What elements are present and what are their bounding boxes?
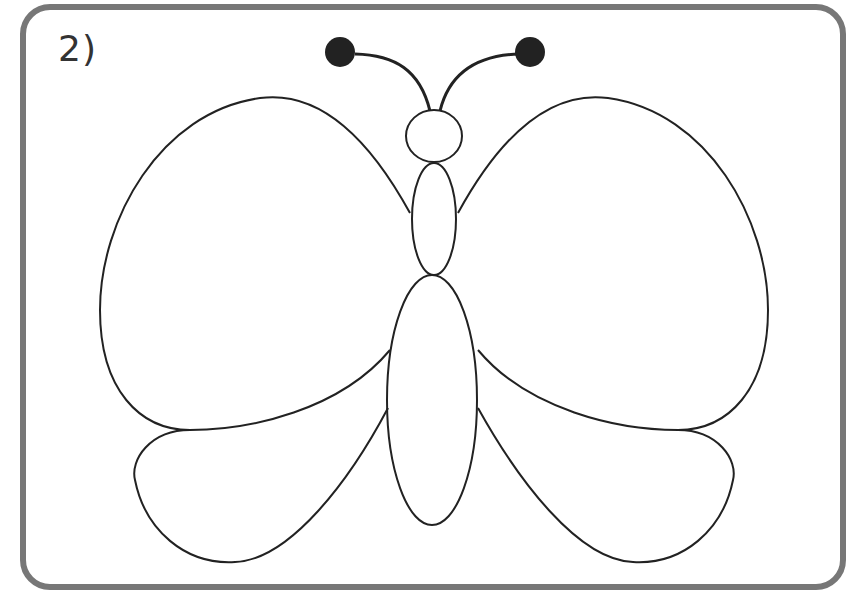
upper-right-wing: [458, 97, 768, 430]
head: [406, 110, 462, 162]
lower-left-wing: [134, 408, 388, 562]
butterfly-drawing: [0, 0, 852, 609]
abdomen: [387, 275, 477, 525]
upper-left-wing: [100, 97, 410, 430]
antennae: [325, 37, 545, 111]
lower-right-wing: [478, 408, 734, 562]
thorax: [412, 163, 456, 275]
